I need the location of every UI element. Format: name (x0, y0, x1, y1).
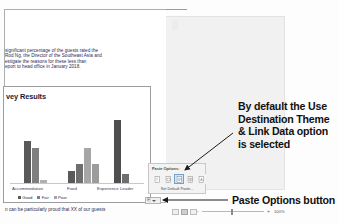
clipboard-icon: ⎘ (147, 198, 151, 203)
category-label: Food (67, 186, 77, 191)
paste-option-keep-source-formatting-and-link-data-icon[interactable] (163, 174, 173, 184)
zoom-out-button[interactable]: - (197, 208, 199, 215)
annotation-main-text: By default the Use Destination Theme & L… (238, 100, 338, 150)
category-label: Accommodation (12, 186, 43, 191)
paste-option-use-destination-theme-and-embed-workbook-icon[interactable] (185, 174, 195, 184)
legend-label: Fair (42, 195, 49, 200)
chart-legend: Good Fair Poor (18, 195, 67, 200)
zoom-slider-track[interactable] (202, 211, 264, 212)
legend-label: Good (22, 195, 32, 200)
legend-item-good: Good (18, 195, 32, 200)
zoom-in-button[interactable]: + (267, 208, 270, 215)
paste-options-button[interactable]: ⎘ (145, 197, 161, 204)
legend-item-fair: Fair (37, 195, 48, 200)
bar-group-food (68, 111, 99, 183)
bar-good (68, 171, 75, 183)
legend-item-poor: Poor (54, 195, 67, 200)
legend-swatch-icon (54, 196, 57, 199)
chart-title: vey Results (6, 92, 46, 101)
document-line: eport to head office in January 2018. (5, 64, 151, 69)
chart-plot-area (10, 111, 144, 183)
annotation-paste-button-text: Paste Options button (232, 194, 335, 206)
category-label: Experience Leader (97, 186, 133, 191)
set-default-paste-link[interactable]: Set Default Paste... (149, 187, 205, 191)
paste-option-keep-text-only-icon[interactable]: A (196, 174, 206, 184)
bar-group-experience-leader (114, 111, 129, 183)
bar-good (114, 120, 121, 183)
paste-options-icon-row: A (152, 174, 206, 184)
word-document-workspace: significant percentage of the guests rat… (0, 0, 339, 224)
legend-swatch-icon (18, 196, 21, 199)
view-button-read-mode[interactable] (190, 209, 197, 215)
status-bar: - + 100% (172, 207, 313, 216)
legend-swatch-icon (37, 196, 40, 199)
bar-fair (32, 148, 39, 183)
bar-poor (84, 148, 91, 183)
paste-options-title: Paste Options: (152, 166, 179, 171)
view-button-print-layout[interactable] (172, 209, 179, 215)
bar-good (24, 141, 31, 183)
bar-fair (122, 174, 129, 183)
bar-extra (92, 164, 99, 183)
document-closing-line: n can be particularly proud that XX of o… (5, 207, 155, 213)
paste-option-use-destination-theme-and-link-data-icon[interactable] (174, 174, 184, 184)
zoom-slider-thumb[interactable] (231, 209, 233, 215)
background-page-texture (172, 20, 272, 30)
zoom-slider[interactable]: - + (202, 209, 264, 215)
embedded-chart-object[interactable]: vey Results (3, 86, 151, 203)
chart-category-labels: Accommodation Food Experience Leader (4, 186, 150, 194)
paste-options-flyout[interactable]: Paste Options: A Set Default Paste... (148, 163, 206, 194)
bar-fair (76, 164, 83, 183)
document-page[interactable]: significant percentage of the guests rat… (4, 9, 166, 203)
bar-group-accommodation (24, 111, 47, 183)
legend-label: Poor (58, 195, 67, 200)
chart-x-axis (10, 183, 144, 184)
paste-option-keep-source-formatting-and-embed-workbook-icon[interactable] (152, 174, 162, 184)
document-paragraph: significant percentage of the guests rat… (5, 48, 151, 69)
zoom-level-label[interactable]: 100% (274, 209, 285, 214)
view-button-web-layout[interactable] (181, 209, 188, 215)
chevron-down-icon (152, 200, 156, 202)
